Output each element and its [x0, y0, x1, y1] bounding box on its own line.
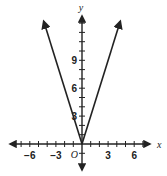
y-axis: [79, 16, 85, 170]
y-tick-label: 6: [71, 83, 77, 94]
y-tick-label: 3: [71, 111, 77, 122]
x-axis-label: x: [156, 139, 162, 150]
x-tick-label: 6: [131, 150, 137, 161]
graph-branch: [82, 21, 120, 144]
origin-label: O: [71, 149, 78, 160]
graph-absolute-value: −6−336369xyO: [0, 0, 167, 176]
x-axis: [10, 141, 150, 147]
y-axis-label: y: [78, 2, 84, 13]
y-tick-label: 9: [71, 55, 77, 66]
x-tick-label: −6: [24, 150, 36, 161]
x-tick-label: −3: [50, 150, 62, 161]
x-tick-label: 3: [105, 150, 111, 161]
